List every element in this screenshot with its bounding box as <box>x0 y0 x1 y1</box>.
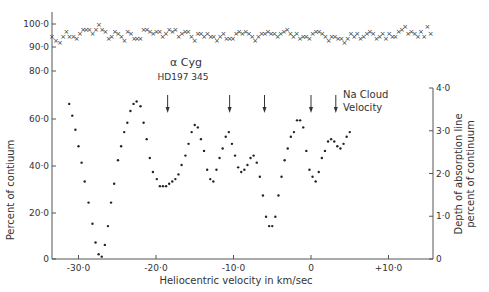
data-point <box>129 110 131 112</box>
right-axis-ticks: 01·02·03·04·0 <box>429 83 451 264</box>
arrow-down-icon <box>309 107 313 113</box>
data-point <box>339 147 341 149</box>
data-point <box>113 183 115 185</box>
continuum-series: ××××××××××××××××××××××××××××××××××××××××… <box>49 21 433 47</box>
data-point <box>190 131 192 133</box>
data-point <box>290 136 292 138</box>
data-point <box>237 166 239 168</box>
data-point <box>330 138 332 140</box>
data-point <box>231 143 233 145</box>
data-point <box>165 185 167 187</box>
x-axis-ticks: -30·0-20·0-10·00+10·0 <box>67 255 403 273</box>
left-tick-label: 90·0 <box>29 42 49 52</box>
data-point <box>283 159 285 161</box>
x-marker: × <box>138 35 144 43</box>
left-axis-ticks: 020·040·060·080·090·0100·0 <box>23 19 56 264</box>
data-point <box>259 176 261 178</box>
data-point <box>256 161 258 163</box>
data-point <box>135 100 137 102</box>
data-point <box>139 105 141 107</box>
right-tick-label: 0 <box>436 254 442 264</box>
data-point <box>77 145 79 147</box>
data-point <box>277 194 279 196</box>
x-marker: × <box>421 33 427 41</box>
x-tick-label: -20·0 <box>144 263 168 273</box>
data-point <box>142 122 144 124</box>
data-point <box>87 201 89 203</box>
x-marker: × <box>192 37 198 45</box>
data-point <box>327 140 329 142</box>
data-point <box>265 216 267 218</box>
data-point <box>336 145 338 147</box>
data-point <box>342 143 344 145</box>
data-point <box>91 223 93 225</box>
data-point <box>280 176 282 178</box>
data-point <box>152 171 154 173</box>
data-point <box>107 225 109 227</box>
data-point <box>149 157 151 159</box>
data-point <box>168 183 170 185</box>
left-tick-label: 0 <box>43 254 49 264</box>
x-axis-label: Heliocentric velocity in km/sec <box>159 275 312 286</box>
left-tick-label: 60·0 <box>29 114 49 124</box>
data-point <box>206 169 208 171</box>
data-point <box>117 159 119 161</box>
right-tick-label: 3·0 <box>436 126 451 136</box>
data-point <box>156 178 158 180</box>
arrow-down-icon <box>334 107 338 113</box>
left-tick-label: 80·0 <box>29 66 49 76</box>
data-point <box>162 185 164 187</box>
data-point <box>274 216 276 218</box>
data-point <box>74 129 76 131</box>
data-point <box>252 154 254 156</box>
right-tick-label: 1·0 <box>436 211 451 221</box>
data-point <box>212 180 214 182</box>
data-point <box>71 114 73 116</box>
data-point <box>243 169 245 171</box>
data-point <box>349 131 351 133</box>
data-point <box>197 126 199 128</box>
data-point <box>299 119 301 121</box>
data-point <box>94 241 96 243</box>
data-point <box>234 154 236 156</box>
arrow-down-icon <box>228 107 232 113</box>
right-tick-label: 2·0 <box>436 169 451 179</box>
data-point <box>187 143 189 145</box>
left-tick-label: 100·0 <box>23 19 49 29</box>
left-tick-label: 20·0 <box>29 208 49 218</box>
data-point <box>324 150 326 152</box>
chart-title: α Cyg <box>170 56 202 69</box>
x-tick-label: 0 <box>308 263 314 273</box>
x-marker: × <box>428 30 434 38</box>
data-point <box>174 178 176 180</box>
data-point <box>268 225 270 227</box>
data-point <box>180 164 182 166</box>
x-tick-label: -30·0 <box>67 263 91 273</box>
data-point <box>296 119 298 121</box>
arrow-label-line1: Na Cloud <box>343 89 388 100</box>
y-axis-label-right-2: percent of continuum <box>465 120 476 228</box>
data-point <box>305 150 307 152</box>
data-point <box>97 253 99 255</box>
data-point <box>68 103 70 105</box>
data-point <box>84 180 86 182</box>
data-point <box>101 255 103 257</box>
arrow-down-icon <box>263 107 267 113</box>
absorption-series <box>68 100 351 258</box>
data-point <box>203 150 205 152</box>
data-point <box>228 131 230 133</box>
y-axis-label-left: Percent of contiuum <box>5 140 16 241</box>
data-point <box>104 244 106 246</box>
x-marker: × <box>122 37 128 45</box>
data-point <box>177 173 179 175</box>
data-point <box>225 136 227 138</box>
arrow-label-line2: Velocity <box>343 102 382 113</box>
data-point <box>333 140 335 142</box>
chart: 020·040·060·080·090·0100·0 01·02·03·04·0… <box>0 0 489 292</box>
velocity-arrows <box>166 95 338 113</box>
y-axis-label-right-1: Depth of absorption line <box>453 113 464 234</box>
data-point <box>146 138 148 140</box>
data-point <box>159 185 161 187</box>
right-tick-label: 4·0 <box>436 83 451 93</box>
data-point <box>80 161 82 163</box>
